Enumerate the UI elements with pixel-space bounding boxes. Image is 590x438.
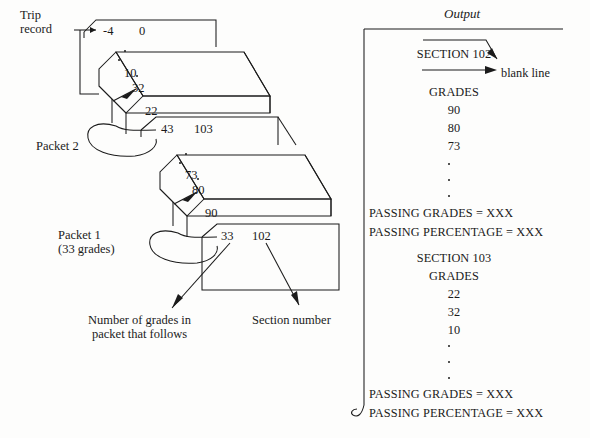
card-value-0: 0: [139, 24, 145, 39]
output-line: 73: [364, 139, 544, 154]
section-number-arrow: [266, 243, 299, 305]
output-line: PASSING GRADES = XXX: [369, 206, 513, 221]
packet-1-deck-outline: [160, 155, 331, 216]
output-line: PASSING GRADES = XXX: [369, 387, 513, 402]
output-line: 32: [364, 305, 544, 320]
card-value-80: 80: [192, 183, 205, 198]
deck-dot: [179, 162, 181, 164]
card-value-102: 102: [252, 229, 271, 244]
ellipsis-dot: [448, 195, 450, 197]
figure-container: Trip record Packet 2 Packet 1 (33 grades…: [0, 0, 590, 438]
output-line: 10: [364, 323, 544, 338]
output-line: SECTION 102: [364, 47, 544, 62]
caption-section-number: Section number: [252, 313, 331, 327]
card-value-minus-4: -4: [103, 24, 113, 39]
ellipsis-dot: [448, 345, 450, 347]
ellipsis-dot: [448, 179, 450, 181]
output-line: SECTION 103: [364, 251, 544, 266]
output-line: GRADES: [364, 269, 544, 284]
deck-dot: [124, 50, 126, 52]
output-line: 80: [364, 121, 544, 136]
packet-2-leader-curve: [88, 89, 157, 156]
trip-record-leader: [74, 27, 99, 94]
trip-record-label: Trip record: [20, 8, 52, 36]
output-line: 90: [364, 103, 544, 118]
ellipsis-dot: [448, 361, 450, 363]
packet-1-deck-side-lines: [160, 189, 187, 237]
deck-dot: [136, 75, 138, 77]
deck-dot: [185, 153, 187, 155]
deck-dot: [197, 178, 199, 180]
ellipsis-dot: [448, 163, 450, 165]
card-value-22: 22: [145, 104, 158, 119]
packet-1-label: Packet 1 (33 grades): [58, 228, 115, 256]
card-value-90: 90: [205, 206, 218, 221]
card-value-103: 103: [194, 122, 213, 137]
packet-2-label: Packet 2: [36, 139, 79, 153]
blank-line-arrow: [422, 66, 497, 74]
blank-line-label: blank line: [501, 66, 550, 81]
output-line: 22: [364, 287, 544, 302]
card-value-32: 32: [132, 81, 145, 96]
packet-1-leader-curve: [150, 192, 218, 263]
caption-number-of-grades: Number of grades in packet that follows: [88, 313, 191, 341]
packet-2-deck-side-lines: [99, 86, 126, 134]
packet-2-deck-outline: [99, 52, 270, 113]
output-panel-title: Output: [444, 6, 480, 22]
card-value-33: 33: [221, 229, 234, 244]
card-value-10: 10: [124, 66, 137, 81]
deck-dot: [118, 59, 120, 61]
output-line: PASSING PERCENTAGE = XXX: [369, 406, 543, 421]
ellipsis-dot: [448, 377, 450, 379]
card-value-43: 43: [161, 122, 174, 137]
output-line: PASSING PERCENTAGE = XXX: [369, 225, 543, 240]
number-of-grades-arrow: [172, 243, 230, 308]
output-line: GRADES: [364, 85, 544, 100]
card-value-73: 73: [185, 168, 198, 183]
